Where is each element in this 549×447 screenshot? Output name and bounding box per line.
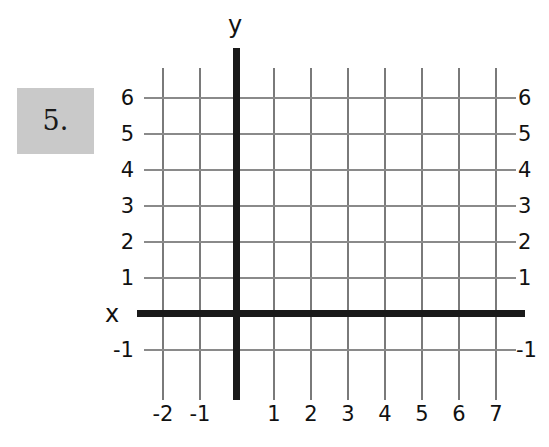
y-tick-label-left: 6 <box>99 88 134 109</box>
gridline-horizontal <box>144 241 516 243</box>
x-tick-label: 3 <box>330 404 366 425</box>
y-axis-label: y <box>228 13 242 37</box>
gridline-horizontal <box>144 133 516 135</box>
gridline-horizontal <box>144 205 516 207</box>
x-tick-label: -2 <box>145 404 181 425</box>
x-tick-label: 4 <box>367 404 403 425</box>
x-tick-label: 5 <box>404 404 440 425</box>
coordinate-grid: y x 6 5 4 3 2 1 -1 6 5 4 3 2 1 -1 -2 -1 … <box>0 0 549 447</box>
y-tick-label-left: -1 <box>95 340 134 361</box>
x-tick-label: 1 <box>256 404 292 425</box>
y-tick-label-right: 5 <box>518 124 549 145</box>
x-axis-line <box>137 310 525 317</box>
y-tick-label-right: 1 <box>518 268 549 289</box>
y-axis-line <box>233 48 240 400</box>
y-tick-label-right: 2 <box>518 232 549 253</box>
x-tick-label: -1 <box>182 404 218 425</box>
x-tick-label: 2 <box>293 404 329 425</box>
x-axis-label: x <box>105 302 119 326</box>
gridline-horizontal <box>144 169 516 171</box>
y-tick-label-right: 4 <box>518 160 549 181</box>
x-tick-label: 6 <box>441 404 477 425</box>
y-tick-label-left: 4 <box>99 160 134 181</box>
gridline-horizontal <box>144 277 516 279</box>
y-tick-label-left: 2 <box>99 232 134 253</box>
worksheet-page: 5. y x 6 5 4 3 2 1 -1 6 <box>0 0 549 447</box>
gridline-horizontal <box>144 97 516 99</box>
y-tick-label-right: 3 <box>518 196 549 217</box>
gridline-horizontal <box>144 349 516 351</box>
y-tick-label-left: 1 <box>99 268 134 289</box>
y-tick-label-right: 6 <box>518 88 549 109</box>
y-tick-label-left: 3 <box>99 196 134 217</box>
x-tick-label: 7 <box>478 404 514 425</box>
y-tick-label-left: 5 <box>99 124 134 145</box>
y-tick-label-right: -1 <box>516 340 549 361</box>
